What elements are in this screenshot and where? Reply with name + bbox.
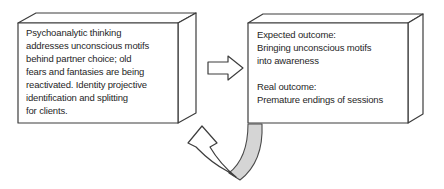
feedback-arrow-head-icon <box>188 126 236 177</box>
right-box-side-face <box>408 14 423 123</box>
feedback-arrow-band <box>229 124 262 180</box>
right-box-text: Expected outcome: Bringing unconscious m… <box>257 28 407 106</box>
left-box-text: Psychoanalytic thinking addresses uncons… <box>26 26 176 117</box>
left-box-top-face <box>18 13 196 23</box>
forward-arrow-icon <box>208 56 243 80</box>
diagram-canvas: Psychoanalytic thinking addresses uncons… <box>0 0 444 189</box>
left-box-side-face <box>178 13 196 123</box>
right-box-top-face <box>248 14 423 23</box>
